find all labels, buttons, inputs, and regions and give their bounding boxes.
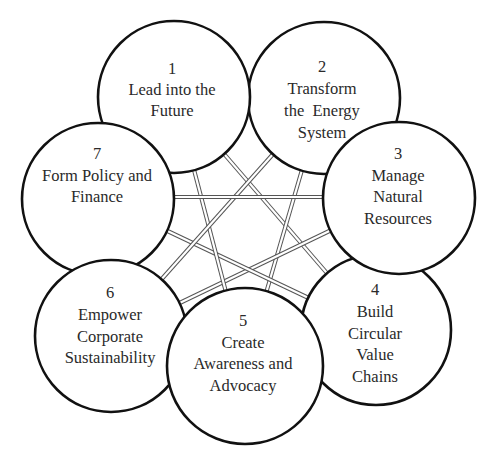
node-7-line-2: Finance xyxy=(71,187,123,206)
node-6-line-1: Empower xyxy=(78,305,143,324)
node-5[interactable]: 5 Create Awareness and Advocacy xyxy=(167,288,323,444)
node-1-number: 1 xyxy=(168,59,176,78)
node-7[interactable]: 7 Form Policy and Finance xyxy=(22,123,174,275)
node-4-line-4: Chains xyxy=(352,367,398,386)
node-2-number: 2 xyxy=(318,57,326,76)
node-3-number: 3 xyxy=(394,144,402,163)
node-2-line-1: Transform xyxy=(287,79,356,98)
node-7-number: 7 xyxy=(93,144,101,163)
node-5-number: 5 xyxy=(239,311,247,330)
node-4[interactable]: 4 Build Circular Value Chains xyxy=(301,255,451,405)
node-3-line-1: Manage xyxy=(371,166,424,185)
node-6[interactable]: 6 Empower Corporate Sustainability xyxy=(35,260,187,412)
node-4-line-2: Circular xyxy=(348,324,403,343)
node-3[interactable]: 3 Manage Natural Resources xyxy=(323,122,475,274)
node-4-number: 4 xyxy=(371,280,379,299)
node-7-line-1: Form Policy and xyxy=(42,166,153,185)
node-3-line-2: Natural xyxy=(373,187,423,206)
node-5-line-1: Create xyxy=(221,333,264,352)
node-4-line-3: Value xyxy=(356,345,394,364)
node-6-line-3: Sustainability xyxy=(65,348,157,367)
node-1-line-1: Lead into the xyxy=(128,80,215,99)
node-2-line-2: the Energy xyxy=(284,101,361,120)
node-4-line-1: Build xyxy=(357,302,394,321)
node-3-line-3: Resources xyxy=(364,209,432,228)
node-6-number: 6 xyxy=(106,283,114,302)
node-1-line-2: Future xyxy=(150,101,193,120)
node-2-line-3: System xyxy=(298,123,347,142)
node-5-line-2: Awareness and xyxy=(194,354,294,373)
diagram-canvas: 2 Transform the Energy System 1 Lead int… xyxy=(0,0,495,455)
node-5-line-3: Advocacy xyxy=(210,376,278,395)
node-6-line-2: Corporate xyxy=(77,327,143,346)
